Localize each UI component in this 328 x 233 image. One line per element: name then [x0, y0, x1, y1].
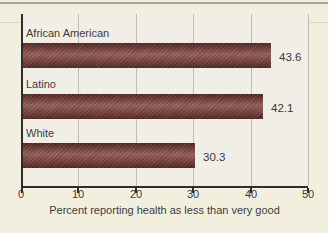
x-tick-label-40: 40 — [234, 188, 268, 200]
category-label-african-american: African American — [26, 26, 109, 40]
value-label-white: 30.3 — [203, 150, 225, 164]
x-tick-label-0: 0 — [4, 188, 38, 200]
x-axis-title: Percent reporting health as less than ve… — [21, 204, 308, 216]
bar-white — [23, 143, 195, 168]
bar-chart-figure: 01020304050African American43.6Latino42.… — [0, 0, 328, 233]
value-label-african-american: 43.6 — [279, 50, 301, 64]
category-label-white: White — [26, 126, 54, 140]
bar-latino — [23, 94, 263, 119]
gridline-50 — [308, 14, 309, 186]
x-tick-label-10: 10 — [61, 188, 95, 200]
value-label-latino: 42.1 — [271, 101, 293, 115]
plot-area: 01020304050African American43.6Latino42.… — [21, 14, 308, 186]
figure-top-rule — [0, 2, 328, 4]
category-label-latino: Latino — [26, 77, 56, 91]
x-tick-label-20: 20 — [119, 188, 153, 200]
bar-african-american — [23, 43, 271, 68]
x-tick-label-50: 50 — [291, 188, 325, 200]
x-tick-label-30: 30 — [176, 188, 210, 200]
